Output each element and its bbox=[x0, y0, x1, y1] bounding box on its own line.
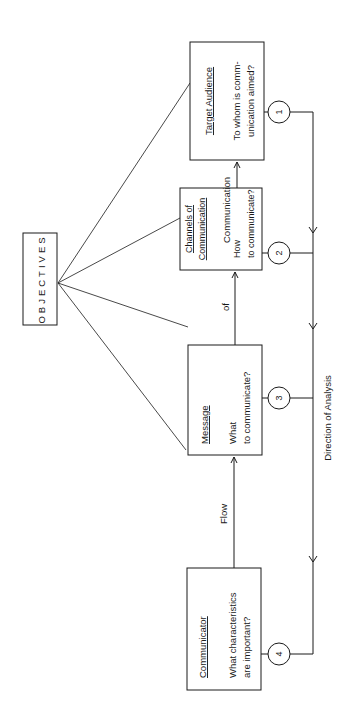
step-circle-1: 1 bbox=[268, 101, 290, 123]
channels-title-2: Communication bbox=[197, 198, 207, 261]
analysis-line bbox=[261, 112, 317, 654]
communicator-node: Communicator What characteristics are im… bbox=[187, 568, 261, 690]
flow-label: Flow bbox=[218, 504, 229, 524]
message-title: Message bbox=[199, 405, 210, 444]
svg-text:4: 4 bbox=[274, 651, 284, 656]
objectives-label: OBJECTIVES bbox=[36, 234, 47, 323]
svg-text:2: 2 bbox=[274, 250, 284, 255]
direction-of-analysis-label: Direction of Analysis bbox=[322, 375, 333, 461]
message-node: Message What to communicate? bbox=[188, 345, 262, 455]
message-question-2: to communicate? bbox=[241, 372, 252, 444]
objective-links bbox=[58, 83, 190, 450]
communicator-title: Communicator bbox=[197, 616, 208, 678]
svg-text:3: 3 bbox=[274, 395, 284, 400]
step-circle-4: 4 bbox=[268, 643, 290, 665]
objectives-node: OBJECTIVES bbox=[23, 233, 57, 325]
svg-text:1: 1 bbox=[274, 109, 284, 114]
target-audience-title: Target Audience bbox=[203, 67, 214, 135]
target-audience-question-1: To whom is comm- bbox=[231, 61, 242, 140]
message-question-1: What bbox=[227, 421, 238, 444]
channels-title-1: Channels of bbox=[184, 204, 194, 253]
target-audience-node: Target Audience To whom is comm- unicati… bbox=[190, 42, 264, 160]
communication-label: Communication bbox=[221, 177, 232, 243]
diagram-canvas: OBJECTIVES Target Audience To whom is co… bbox=[0, 0, 346, 727]
of-label: of bbox=[220, 303, 231, 311]
channels-question-1: How bbox=[232, 239, 242, 258]
communicator-question-1: What characteristics bbox=[227, 592, 238, 678]
target-audience-question-2: unication aimed? bbox=[245, 65, 256, 137]
channels-question-2: to communicate? bbox=[246, 189, 256, 258]
step-circle-2: 2 bbox=[268, 242, 290, 264]
step-circle-3: 3 bbox=[268, 387, 290, 409]
communicator-question-2: are important? bbox=[241, 617, 252, 678]
